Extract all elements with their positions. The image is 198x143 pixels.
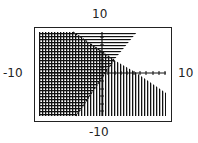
graph-screen (0, 0, 198, 143)
